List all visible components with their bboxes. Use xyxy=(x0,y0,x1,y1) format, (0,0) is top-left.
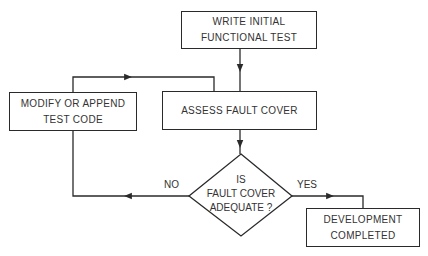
development-completed-box: DEVELOPMENT COMPLETED xyxy=(306,208,420,247)
yes-label: YES xyxy=(297,179,317,190)
node-text: FAULT COVER xyxy=(196,187,286,201)
node-text: DEVELOPMENT xyxy=(324,212,403,228)
modify-test-code-box: MODIFY OR APPEND TEST CODE xyxy=(9,92,137,131)
node-text: COMPLETED xyxy=(331,228,396,244)
node-text: WRITE INITIAL xyxy=(213,14,286,30)
node-text: MODIFY OR APPEND xyxy=(21,96,126,112)
node-text: TEST CODE xyxy=(43,112,103,128)
node-text: ADEQUATE ? xyxy=(196,201,286,215)
node-text: IS xyxy=(196,173,286,187)
assess-fault-cover-box: ASSESS FAULT COVER xyxy=(162,91,317,130)
node-text: FUNCTIONAL TEST xyxy=(201,30,297,46)
write-initial-test-box: WRITE INITIAL FUNCTIONAL TEST xyxy=(181,11,317,49)
node-text: ASSESS FAULT COVER xyxy=(181,103,298,119)
no-label: NO xyxy=(164,179,179,190)
decision-diamond-text: IS FAULT COVER ADEQUATE ? xyxy=(196,173,286,215)
